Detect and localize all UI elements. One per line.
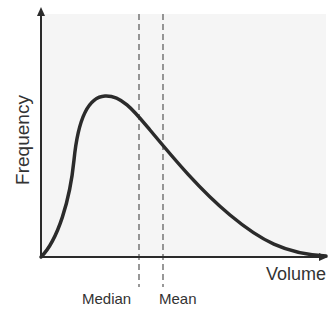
y-axis-label: Frequency (12, 95, 34, 185)
x-axis-label: Volume (266, 264, 326, 285)
mean-label: Mean (159, 290, 197, 307)
y-axis-arrow-icon (37, 7, 45, 16)
median-label: Median (82, 290, 131, 307)
plot-area (42, 14, 326, 257)
